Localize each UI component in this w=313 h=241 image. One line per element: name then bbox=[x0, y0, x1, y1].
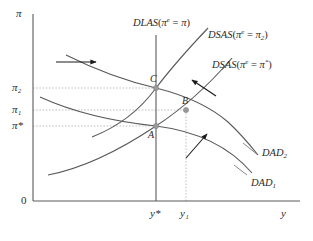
dad2-curve-label: DAD2 bbox=[262, 148, 287, 159]
axes bbox=[33, 14, 300, 201]
point-a-marker bbox=[153, 123, 158, 128]
dsas-pistar-curve bbox=[48, 58, 232, 175]
y-tick-pistar-text: π* bbox=[12, 119, 23, 131]
dad1-label-base: DAD bbox=[251, 177, 273, 188]
dsas-pi2-label-sup: e bbox=[241, 28, 244, 36]
dad1-label-sub: 1 bbox=[273, 182, 277, 190]
dsas-pi2-curve-label: DSAS(πe = π2) bbox=[208, 30, 268, 41]
y-tick-pi2: π₂ bbox=[12, 82, 21, 93]
dsas-pistar-label-paren-close: ) bbox=[268, 59, 272, 70]
dad-dsas-diagram: π π₂ π₁ π* 0 y* y₁ y DLAS(πe = π) DSAS(π… bbox=[0, 0, 313, 241]
x-tick-ystar: y* bbox=[150, 208, 160, 219]
y-tick-pistar: π* bbox=[12, 120, 23, 131]
dad1-curve bbox=[40, 97, 252, 173]
label-leader-lines bbox=[200, 28, 258, 175]
point-a-label: A bbox=[148, 130, 154, 140]
y-tick-pi2-text: π₂ bbox=[12, 81, 21, 93]
dsas-pistar-label-val-sup: * bbox=[265, 58, 269, 66]
dad1-leader bbox=[234, 165, 247, 175]
x-tick-y1: y₁ bbox=[180, 208, 189, 219]
dlas-label-sup: e bbox=[167, 16, 170, 24]
point-c-label: C bbox=[150, 74, 157, 84]
dsas-shift-arrow bbox=[192, 80, 216, 96]
dad2-label-base: DAD bbox=[262, 147, 284, 158]
dsas-pi2-label-val-sub: 2 bbox=[261, 34, 265, 42]
x-tick-y1-text: y₁ bbox=[180, 207, 189, 219]
dsas-pi2-label-base: DSAS bbox=[208, 29, 233, 40]
y-tick-pi1: π₁ bbox=[12, 104, 21, 115]
dsas-pi2-leader bbox=[200, 28, 208, 37]
point-b-marker bbox=[183, 107, 188, 112]
dlas-label-paren-close: ) bbox=[186, 17, 190, 28]
dsas-pistar-label-sup: e bbox=[245, 58, 248, 66]
y-axis-top-label: π bbox=[16, 8, 22, 19]
origin-label: 0 bbox=[21, 195, 27, 206]
dlas-label-eq: = bbox=[170, 17, 181, 28]
x-tick-ystar-text: y* bbox=[150, 207, 160, 219]
dad-point-arrow bbox=[186, 134, 207, 158]
dsas-pi2-label-paren-close: ) bbox=[264, 29, 268, 40]
point-b-label: B bbox=[182, 96, 188, 106]
point-c-marker bbox=[153, 85, 158, 90]
guide-lines bbox=[33, 88, 186, 201]
dsas-pistar-curve-label: DSAS(πe = π*) bbox=[212, 60, 272, 71]
dad2-leader bbox=[243, 143, 258, 155]
dlas-curve-label: DLAS(πe = π) bbox=[133, 18, 190, 29]
dad2-label-sub: 2 bbox=[284, 152, 288, 160]
dlas-label-base: DLAS bbox=[133, 17, 158, 28]
x-axis-label: y bbox=[281, 208, 286, 219]
y-tick-pi1-text: π₁ bbox=[12, 103, 21, 115]
dsas-pistar-label-eq: = bbox=[248, 59, 259, 70]
dsas-pi2-label-eq: = bbox=[244, 29, 255, 40]
dad1-curve-label: DAD1 bbox=[251, 178, 276, 189]
dsas-pistar-label-base: DSAS bbox=[212, 59, 237, 70]
